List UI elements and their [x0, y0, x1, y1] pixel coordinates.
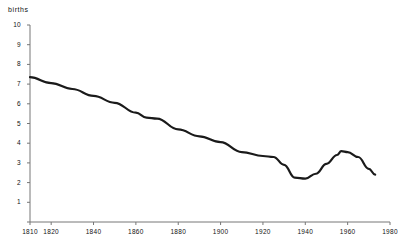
chart-canvas [0, 0, 407, 249]
y-tick-label: 10 [7, 21, 21, 28]
x-tick-label: 1940 [288, 228, 322, 235]
y-tick-label: 1 [7, 198, 21, 205]
y-tick-label: 3 [7, 159, 21, 166]
y-tick-label: 7 [7, 80, 21, 87]
y-tick-label: 2 [7, 179, 21, 186]
y-tick-label: 5 [7, 120, 21, 127]
births-series-line [30, 77, 375, 178]
x-tick-label: 1840 [77, 228, 111, 235]
x-tick-label: 1880 [161, 228, 195, 235]
births-line-chart: births 12345678910 181018201840186018801… [0, 0, 407, 249]
x-tick-label: 1960 [331, 228, 365, 235]
x-tick-label: 1820 [34, 228, 68, 235]
chart-axes [27, 25, 390, 225]
y-tick-label: 8 [7, 60, 21, 67]
x-tick-label: 1980 [373, 228, 407, 235]
x-tick-label: 1860 [119, 228, 153, 235]
x-tick-label: 1920 [246, 228, 280, 235]
y-tick-label: 9 [7, 41, 21, 48]
y-tick-label: 4 [7, 139, 21, 146]
x-tick-label: 1900 [204, 228, 238, 235]
y-tick-label: 6 [7, 100, 21, 107]
